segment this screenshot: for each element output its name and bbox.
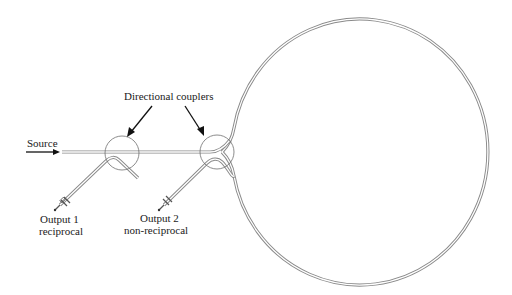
input-waveguide bbox=[62, 140, 230, 152]
source-label: Source bbox=[27, 137, 58, 149]
output-2-sublabel: non-reciprocal bbox=[124, 224, 188, 236]
sagnac-loop-diagram: Source Directional couplers Output 1 rec… bbox=[0, 0, 512, 295]
source-arrow-icon bbox=[26, 149, 60, 155]
couplers-label: Directional couplers bbox=[124, 90, 214, 102]
output-1-label: Output 1 bbox=[40, 213, 79, 225]
output-2-label: Output 2 bbox=[140, 212, 179, 224]
output-1-sublabel: reciprocal bbox=[39, 225, 83, 237]
fiber-loop bbox=[222, 19, 488, 285]
coupler-2-pointer-arrow-icon bbox=[185, 106, 204, 136]
output-2-fiber bbox=[158, 159, 234, 211]
output-1-fiber bbox=[54, 157, 138, 211]
coupler-1-pointer-arrow-icon bbox=[127, 106, 152, 137]
